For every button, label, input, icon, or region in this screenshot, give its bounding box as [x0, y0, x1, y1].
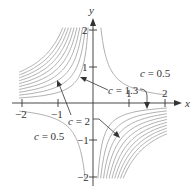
x-tick-label: 2: [162, 87, 168, 99]
label-c05-q3: c = 0.5: [34, 130, 65, 142]
level-curve: [101, 111, 167, 178]
arrow-c13-q2: [84, 79, 108, 90]
y-axis-arrow-icon: [90, 18, 96, 26]
y-tick-label: −1: [77, 134, 89, 146]
level-curve: [19, 28, 79, 90]
level-curve: [19, 28, 63, 73]
y-tick-label: 1: [82, 61, 88, 73]
y-axis-label: y: [88, 4, 94, 16]
level-curve: [19, 28, 82, 93]
label-c05-q1: c = 0.5: [140, 67, 171, 79]
level-curve: [123, 134, 167, 179]
label-c2: c = 2: [68, 115, 90, 127]
contour-plot: x y −2 −1 1 2 2 1 −1 −2 c = 0.5 c = 1.3 …: [0, 0, 194, 194]
y-tick-label: −2: [77, 171, 89, 183]
level-curve: [106, 117, 167, 179]
y-tick-label: 2: [82, 24, 88, 36]
arrowhead-icon: [80, 77, 87, 82]
x-tick-label: −2: [15, 108, 27, 120]
level-curve: [19, 28, 85, 96]
arrowhead-icon: [57, 80, 62, 87]
label-c13: c = 1.3: [108, 84, 139, 96]
arrowhead-icon: [144, 102, 150, 109]
level-curve: [104, 114, 167, 179]
level-curve: [19, 28, 68, 78]
x-tick-label: −1: [51, 108, 63, 120]
level-curve: [118, 128, 167, 178]
x-axis-label: x: [184, 97, 190, 109]
x-axis-arrow-icon: [174, 100, 182, 106]
